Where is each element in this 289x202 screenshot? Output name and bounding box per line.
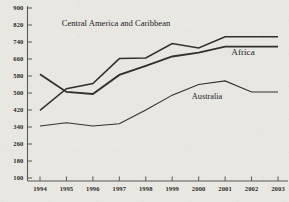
x-tick-label: 2002	[245, 185, 259, 192]
y-tick-label: 580	[13, 72, 24, 79]
y-tick-label: 180	[13, 157, 24, 164]
x-tick-label: 1995	[60, 185, 74, 192]
x-tick-label: 2003	[271, 185, 285, 192]
chart-plot-area: 900820740660580500420340260180100 199419…	[0, 0, 289, 202]
x-tick-label: 1997	[113, 185, 127, 192]
series-label-australia: Australia	[192, 92, 223, 101]
x-tick-label: 1999	[165, 185, 179, 192]
series-annotations: Central America and CaribbeanAfricaAustr…	[62, 18, 255, 101]
y-tick-label: 500	[13, 89, 24, 96]
x-tick-label: 2001	[218, 185, 232, 192]
y-axis: 900820740660580500420340260180100	[13, 4, 32, 181]
y-tick-label: 420	[13, 106, 24, 113]
series-label-central-america-and-caribbean: Central America and Caribbean	[62, 18, 171, 28]
x-axis: 1994199519961997199819992000200120022003	[28, 177, 289, 193]
y-tick-label: 100	[13, 174, 24, 181]
x-tick-label: 2000	[192, 185, 206, 192]
x-tick-label: 1996	[86, 185, 100, 192]
y-tick-label: 740	[13, 38, 24, 45]
y-tick-label: 820	[13, 21, 24, 28]
y-tick-label: 260	[13, 140, 24, 147]
line-chart: 900820740660580500420340260180100 199419…	[0, 0, 289, 202]
y-tick-label: 900	[13, 4, 24, 11]
x-tick-label: 1994	[33, 185, 47, 192]
y-tick-label: 660	[13, 55, 24, 62]
x-tick-label: 1998	[139, 185, 153, 192]
y-tick-label: 340	[13, 123, 24, 130]
series-label-africa: Africa	[231, 47, 254, 57]
